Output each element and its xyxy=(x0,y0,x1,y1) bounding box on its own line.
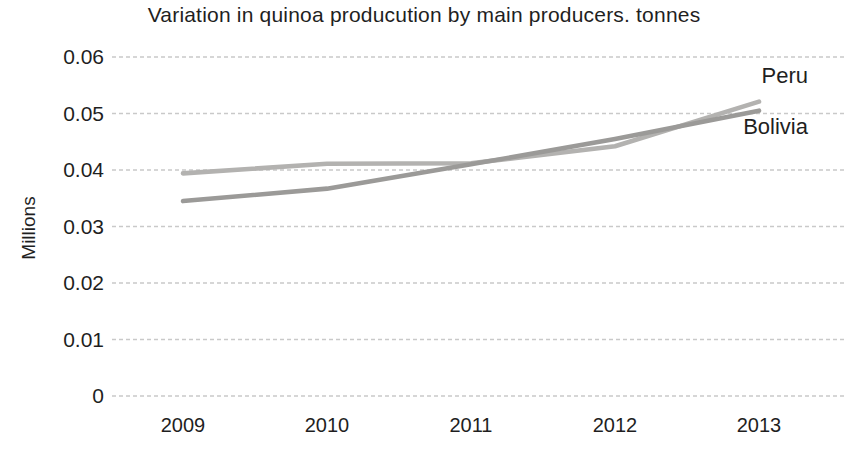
x-tick-label-2011: 2011 xyxy=(421,412,521,438)
series-label-bolivia: Bolivia xyxy=(743,114,808,140)
y-tick-label-0.02: 0.02 xyxy=(0,269,104,297)
plot-area xyxy=(0,0,848,459)
x-tick-label-2013: 2013 xyxy=(709,412,809,438)
y-tick-label-0.04: 0.04 xyxy=(0,156,104,184)
quinoa-production-chart: Variation in quinoa producution by main … xyxy=(0,0,848,459)
y-tick-label-0.05: 0.05 xyxy=(0,100,104,128)
y-tick-label-0.03: 0.03 xyxy=(0,213,104,241)
bolivia-line xyxy=(183,111,759,201)
series-label-peru: Peru xyxy=(762,63,808,89)
y-tick-label-0: 0 xyxy=(0,382,104,410)
x-tick-label-2010: 2010 xyxy=(277,412,377,438)
x-tick-label-2009: 2009 xyxy=(133,412,233,438)
y-tick-label-0.01: 0.01 xyxy=(0,326,104,354)
x-tick-label-2012: 2012 xyxy=(565,412,665,438)
y-tick-label-0.06: 0.06 xyxy=(0,43,104,71)
